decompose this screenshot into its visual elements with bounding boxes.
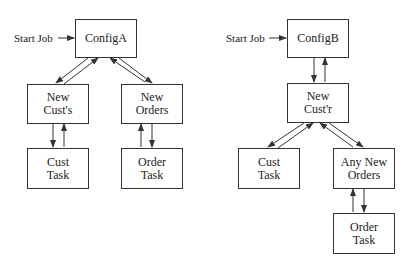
any-new-orders-label-2: Orders [348, 169, 381, 182]
order-task-label-2: Task [141, 169, 164, 182]
new-orders-node: New Orders [121, 84, 183, 124]
any-new-orders-node: Any New Orders [333, 148, 395, 189]
any-new-orders-label-1: Any New [341, 156, 387, 169]
new-orders-label-2: Orders [136, 104, 169, 117]
order-task-node-right: Order Task [333, 213, 395, 254]
cust-task-node-left: Cust Task [27, 148, 89, 189]
config-b-label: ConfigB [297, 32, 338, 45]
config-a-node: ConfigA [75, 19, 137, 58]
order-task-label-2: Task [353, 234, 376, 247]
cust-task-label-1: Cust [47, 156, 69, 169]
order-task-node-left: Order Task [121, 148, 183, 189]
cust-task-label-1: Cust [258, 156, 280, 169]
order-task-label-1: Order [350, 221, 378, 234]
cust-task-node-right: Cust Task [238, 148, 300, 189]
order-task-label-1: Order [138, 156, 166, 169]
new-custr-node: New Cust'r [287, 83, 349, 123]
config-a-label: ConfigA [85, 32, 127, 45]
cust-task-label-2: Task [47, 169, 70, 182]
new-custr-label-2: Cust'r [304, 103, 332, 116]
new-custs-label-2: Cust's [44, 104, 73, 117]
config-b-node: ConfigB [287, 19, 349, 58]
cust-task-label-2: Task [258, 169, 281, 182]
start-job-label-right: Start Job [226, 32, 265, 44]
start-job-label-left: Start Job [14, 32, 53, 44]
new-custs-node: New Cust's [27, 84, 89, 124]
